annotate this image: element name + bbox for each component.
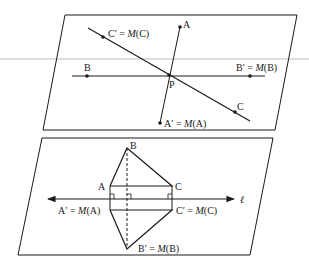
label-aprime-bottom: A′ = M(A) [58,205,100,217]
label-p: P [169,79,175,90]
label-c-bottom: C [175,181,182,192]
bottom-panel: B A C ℓ A′ = M(A) C′ = M(C) B′ = M(B) [18,138,273,255]
bottom-plane [18,138,273,255]
label-b: B [84,62,91,73]
right-angle-marker-a [110,194,114,199]
right-angle-marker-c [168,194,172,199]
label-b-bottom: B [130,140,137,151]
label-a-bottom: A [98,181,106,192]
label-aprime: A′ = M(A) [164,118,206,130]
reflection-diagram: A B C P C′ = M(C) B′ = M(B) A′ = M(A) B … [0,0,309,270]
label-bprime: B′ = M(B) [236,62,277,74]
label-cprime-bottom: C′ = M(C) [176,205,217,217]
point-aprime [158,121,162,125]
label-cprime: C′ = M(C) [108,28,149,40]
label-bprime-bottom: B′ = M(B) [138,243,179,255]
point-b [85,74,89,78]
label-a: A [183,19,191,30]
right-angle-marker-b [127,194,131,199]
point-a [178,25,182,29]
label-line-l: ℓ [240,194,244,205]
point-p [167,73,171,77]
triangle-abc [110,148,172,186]
top-panel: A B C P C′ = M(C) B′ = M(B) A′ = M(A) [43,15,297,130]
label-c: C [237,101,244,112]
point-cprime [101,35,105,39]
point-bprime [248,74,252,78]
